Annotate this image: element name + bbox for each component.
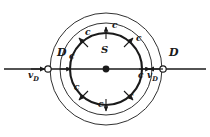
wavefront-diagram: S D D vD vD c c c c c c c c	[0, 0, 210, 137]
detector-left-label: D	[57, 47, 67, 58]
speed-label-left: c	[69, 52, 74, 61]
speed-label-right: c	[138, 71, 143, 80]
source-label: S	[101, 45, 108, 55]
diagram-canvas	[0, 0, 210, 137]
speed-label-lower-left: c	[74, 83, 79, 92]
velocity-right-subscript: D	[152, 75, 158, 83]
detector-left-marker	[45, 66, 51, 72]
velocity-right-label: vD	[147, 71, 158, 82]
speed-label-bottom: c	[98, 100, 103, 109]
speed-label-upper-right: c	[136, 34, 141, 43]
speed-label-top: c	[112, 21, 117, 30]
detector-right-label: D	[169, 47, 179, 58]
velocity-left-subscript: D	[33, 75, 39, 83]
speed-label-lower-right: c	[128, 92, 133, 101]
source-dot	[103, 66, 110, 73]
speed-label-upper-left: c	[85, 28, 90, 37]
velocity-left-label: vD	[28, 71, 39, 82]
